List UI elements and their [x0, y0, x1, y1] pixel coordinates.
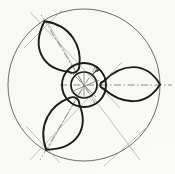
propeller-drawing-canvas: b — [0, 0, 175, 174]
propeller-drawing-figure: b — [0, 0, 175, 174]
hub-group — [62, 63, 106, 107]
construction-line-6 — [104, 128, 146, 166]
angle-label: b — [95, 66, 99, 74]
construction-line-2 — [24, 10, 62, 48]
